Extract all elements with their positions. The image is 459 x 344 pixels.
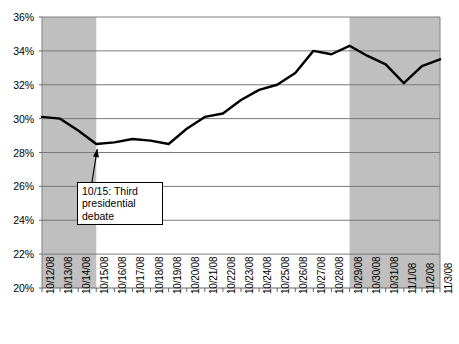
x-axis-tick-label: 11/3/08 (444, 263, 454, 294)
y-axis-tick-label: 32% (0, 80, 34, 90)
y-axis-tick-label: 36% (0, 12, 34, 22)
x-axis-tick-label: 10/26/08 (299, 257, 309, 294)
x-axis-tick-label: 10/28/08 (335, 257, 345, 294)
y-axis-tick-label: 34% (0, 46, 34, 56)
y-axis-tick-label: 26% (0, 181, 34, 191)
x-axis-tick-label: 10/16/08 (118, 257, 128, 294)
y-axis-tick-label: 30% (0, 114, 34, 124)
x-axis-tick-label: 10/25/08 (281, 257, 291, 294)
x-axis-tick-label: 11/2/08 (426, 263, 436, 294)
x-axis-tick-label: 10/29/08 (354, 257, 364, 294)
x-axis-tick-label: 10/20/08 (191, 257, 201, 294)
x-axis-tick-label: 10/17/08 (136, 257, 146, 294)
x-axis-tick-label: 10/27/08 (317, 257, 327, 294)
x-axis-tick-label: 10/23/08 (245, 257, 255, 294)
x-axis-tick-label: 10/18/08 (155, 257, 165, 294)
poll-trend-chart: 36%34%32%30%28%26%24%22%20% 10/12/0810/1… (0, 0, 459, 344)
x-axis-tick-label: 10/14/08 (82, 257, 92, 294)
y-axis-tick-label: 22% (0, 249, 34, 259)
x-axis-tick-label: 10/22/08 (227, 257, 237, 294)
x-axis-tick-label: 10/19/08 (173, 257, 183, 294)
annotation-callout: 10/15: Third presidential debate (77, 182, 163, 225)
x-axis-tick-label: 10/13/08 (64, 257, 74, 294)
y-axis-tick-label: 28% (0, 148, 34, 158)
y-axis-tick-label: 24% (0, 215, 34, 225)
x-axis-tick-label: 10/31/08 (390, 257, 400, 294)
x-axis-tick-label: 10/21/08 (209, 257, 219, 294)
y-axis-tick-label: 20% (0, 283, 34, 293)
x-axis-tick-label: 10/15/08 (100, 257, 110, 294)
x-axis-tick-label: 10/30/08 (372, 257, 382, 294)
x-axis-tick-label: 10/12/08 (46, 257, 56, 294)
x-axis-tick-label: 11/1/08 (408, 263, 418, 294)
x-axis-tick-label: 10/24/08 (263, 257, 273, 294)
